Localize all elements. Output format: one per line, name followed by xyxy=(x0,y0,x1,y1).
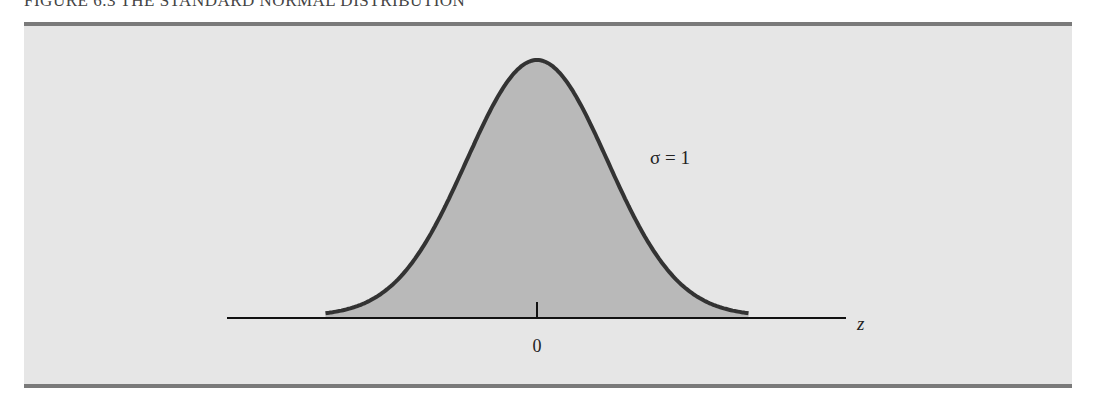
curve-area-fill xyxy=(326,60,749,318)
sigma-annotation: σ = 1 xyxy=(650,147,690,168)
normal-curve-chart: 0 z σ = 1 xyxy=(0,0,1098,407)
x-axis-label: z xyxy=(856,313,865,334)
tick-label-zero: 0 xyxy=(533,336,542,356)
